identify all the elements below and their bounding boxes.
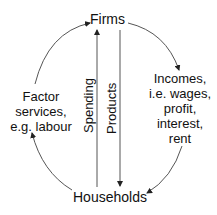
node-firms: Firms [90,12,125,27]
node-households: Households [73,190,147,205]
arrow-households-to-factor [32,133,72,190]
label-products: Products [104,83,119,134]
arrow-factor-to-firms [35,23,90,84]
circular-flow-diagram: Firms Households Factor services, e.g. l… [0,0,217,215]
label-incomes: Incomes, i.e. wages, profit, interest, r… [142,71,217,146]
arrow-incomes-to-households [147,146,182,193]
arrow-firms-to-incomes [128,23,179,70]
label-factor-services: Factor services, e.g. labour [6,89,76,134]
label-spending: Spending [81,78,96,133]
